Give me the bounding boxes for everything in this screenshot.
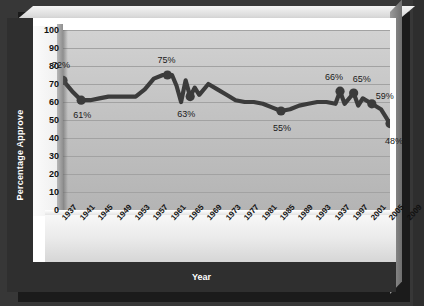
y-tick-label: 60 bbox=[31, 98, 59, 107]
data-point-marker bbox=[335, 87, 344, 96]
y-tick-label: 0 bbox=[31, 206, 59, 215]
data-point-label: 65% bbox=[353, 74, 371, 84]
y-axis-title-label: Percentage Approve bbox=[15, 110, 25, 201]
y-tick-label: 100 bbox=[31, 26, 59, 35]
y-axis-title: Percentage Approve bbox=[7, 18, 33, 292]
y-tick-label: 70 bbox=[31, 80, 59, 89]
y-tick-label: 90 bbox=[31, 44, 59, 53]
y-tick-label: 40 bbox=[31, 134, 59, 143]
data-point-marker bbox=[77, 96, 86, 105]
series-layer bbox=[63, 30, 390, 210]
y-tick-label: 20 bbox=[31, 170, 59, 179]
x-axis-title-label: Year bbox=[192, 272, 211, 282]
data-point-label: 59% bbox=[376, 91, 394, 101]
data-point-label: 48% bbox=[385, 136, 403, 146]
approval-line bbox=[63, 75, 390, 124]
x-axis-title: Year bbox=[7, 262, 396, 292]
data-point-marker bbox=[276, 106, 285, 115]
y-tick-label: 50 bbox=[31, 116, 59, 125]
data-point-label: 63% bbox=[177, 109, 195, 119]
y-tick-label: 30 bbox=[31, 152, 59, 161]
plot-area bbox=[63, 30, 390, 210]
data-point-label: 66% bbox=[325, 72, 343, 82]
data-point-label: 61% bbox=[73, 110, 91, 120]
data-point-marker bbox=[186, 92, 195, 101]
data-point-marker bbox=[163, 70, 172, 79]
data-point-label: 72% bbox=[52, 60, 70, 70]
data-point-label: 75% bbox=[157, 55, 175, 65]
y-tick-label: 10 bbox=[31, 188, 59, 197]
plot-area-inner-shadow bbox=[63, 30, 68, 210]
data-point-label: 55% bbox=[273, 123, 291, 133]
data-point-marker bbox=[349, 88, 358, 97]
